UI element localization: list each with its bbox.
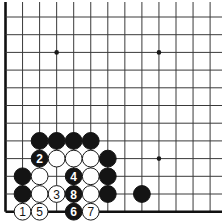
white-stone-icon — [82, 168, 99, 185]
black-stone-icon — [134, 186, 151, 203]
white-stone — [82, 150, 99, 167]
black-stone — [82, 133, 99, 150]
white-stone — [48, 150, 65, 167]
black-stone-move-6: 6 — [65, 203, 82, 220]
black-stone-icon — [14, 186, 31, 203]
black-stone — [65, 133, 82, 150]
black-stone-icon — [99, 186, 116, 203]
star-point-icon — [54, 50, 59, 55]
move-number: 1 — [19, 205, 26, 219]
go-board: 24381567 — [0, 0, 224, 224]
black-stone — [31, 133, 48, 150]
white-stone-move-1: 1 — [14, 203, 31, 220]
black-stone — [99, 150, 116, 167]
black-stone-move-8: 8 — [65, 186, 82, 203]
white-stone — [65, 150, 82, 167]
star-point-icon — [157, 156, 162, 161]
black-stone-icon — [65, 133, 82, 150]
black-stone — [14, 168, 31, 185]
move-number: 3 — [53, 188, 60, 202]
black-stone-move-2: 2 — [31, 150, 48, 167]
black-stone-icon — [99, 168, 116, 185]
black-stone-icon — [99, 150, 116, 167]
black-stone — [99, 168, 116, 185]
white-stone-icon — [82, 186, 99, 203]
move-number: 2 — [36, 152, 43, 166]
black-stone — [14, 186, 31, 203]
move-number: 5 — [36, 205, 43, 219]
white-stone — [82, 186, 99, 203]
white-stone-icon — [48, 150, 65, 167]
move-number: 7 — [87, 205, 94, 219]
white-stone-move-5: 5 — [31, 203, 48, 220]
black-stone — [48, 133, 65, 150]
white-stone — [31, 168, 48, 185]
move-number: 4 — [70, 170, 77, 184]
black-stone-icon — [82, 133, 99, 150]
black-stone — [99, 186, 116, 203]
move-number: 6 — [70, 205, 77, 219]
black-stone-move-4: 4 — [65, 168, 82, 185]
black-stone-icon — [48, 133, 65, 150]
white-stone-move-7: 7 — [82, 203, 99, 220]
star-point-icon — [157, 50, 162, 55]
white-stone-icon — [31, 168, 48, 185]
white-stone — [31, 186, 48, 203]
black-stone-icon — [14, 168, 31, 185]
white-stone — [82, 168, 99, 185]
white-stone-icon — [65, 150, 82, 167]
white-stone-icon — [31, 186, 48, 203]
white-stone-icon — [82, 150, 99, 167]
white-stone-move-3: 3 — [48, 186, 65, 203]
move-number: 8 — [70, 188, 77, 202]
black-stone — [134, 186, 151, 203]
black-stone-icon — [31, 133, 48, 150]
